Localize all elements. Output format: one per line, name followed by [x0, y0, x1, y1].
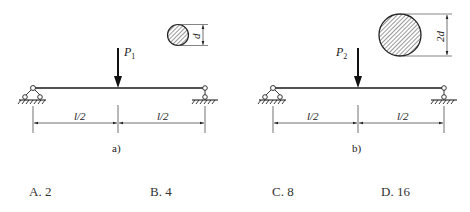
caption-a: a) [112, 142, 121, 155]
span-dimension-b [273, 105, 444, 133]
figure-a: P1 l/2 l/2 a) [18, 25, 218, 156]
section-label-b: 2d [434, 31, 446, 43]
option-a[interactable]: A. 2 [29, 184, 51, 200]
span-label-b-left: l/2 [307, 110, 319, 122]
section-label-a: d [190, 33, 202, 39]
load-label-a: P1 [123, 45, 135, 61]
option-b-value: 4 [165, 184, 172, 199]
option-c[interactable]: C. 8 [272, 184, 294, 200]
option-d-value: 16 [397, 184, 410, 199]
span-dimension-a [33, 105, 205, 133]
option-b-letter: B. [150, 184, 162, 199]
option-a-value: 2 [45, 184, 52, 199]
load-arrow-b-icon [354, 48, 362, 88]
beam-diagrams: P1 l/2 l/2 a) [0, 0, 470, 212]
caption-b: b) [352, 142, 362, 155]
span-label-a-left: l/2 [74, 110, 86, 122]
span-label-a-right: l/2 [157, 110, 169, 122]
option-d[interactable]: D. 16 [381, 184, 410, 200]
option-a-letter: A. [29, 184, 42, 199]
load-arrow-a-icon [114, 48, 122, 88]
option-b[interactable]: B. 4 [150, 184, 172, 200]
figure-b: P2 l/2 l/2 b) [258, 14, 457, 155]
span-label-b-right: l/2 [397, 110, 409, 122]
load-label-b: P2 [335, 45, 347, 61]
option-c-letter: C. [272, 184, 284, 199]
option-d-letter: D. [381, 184, 394, 199]
option-c-value: 8 [287, 184, 294, 199]
